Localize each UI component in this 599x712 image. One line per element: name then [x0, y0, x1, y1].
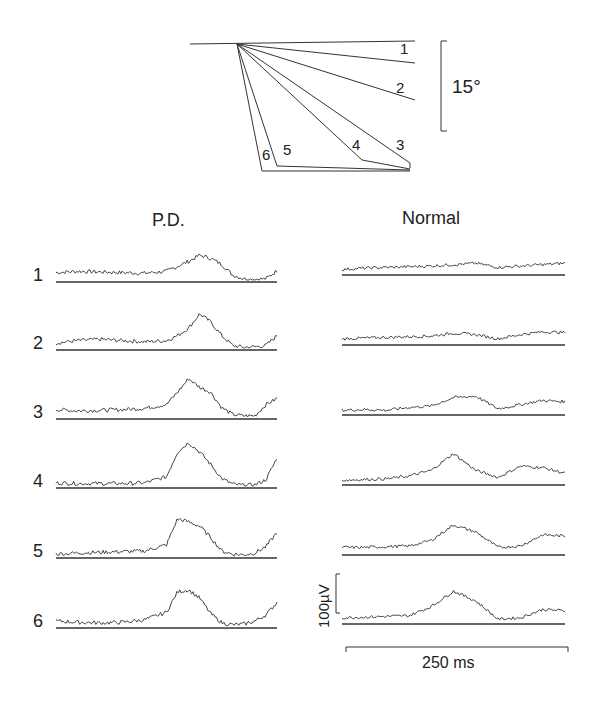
angle-trace-2: [237, 44, 415, 100]
emg-trace: [56, 254, 277, 280]
pd-panel-title: P.D.: [152, 210, 185, 230]
angle-scale-bracket: [441, 41, 447, 131]
emg-trace: [342, 454, 565, 481]
pd-trace-3: [56, 379, 277, 419]
emg-trace: [342, 262, 565, 271]
row-label: 1: [33, 265, 43, 285]
emg-trace: [56, 314, 277, 348]
normal-trace-5: [342, 526, 565, 555]
emg-trace: [342, 526, 565, 549]
pd-trace-1: [56, 254, 277, 282]
angle-trace-label: 6: [262, 146, 270, 163]
pd-trace-5: [56, 519, 277, 558]
normal-trace-3: [342, 396, 565, 415]
figure-canvas: 15° 123456 P.D. Normal 123456 100µV 250 …: [0, 0, 599, 712]
angle-trace-tail: [362, 160, 410, 169]
angle-panel: [190, 41, 447, 171]
emg-trace: [56, 379, 277, 417]
normal-trace-4: [342, 454, 565, 485]
emg-trace: [56, 590, 277, 626]
angle-trace-label: 3: [396, 136, 404, 153]
normal-trace-1: [342, 262, 565, 275]
angle-scale-label: 15°: [452, 76, 481, 97]
row-label: 3: [33, 402, 43, 422]
time-scale-bar: [346, 647, 568, 652]
normal-trace-2: [342, 331, 565, 345]
angle-trace-label: 5: [283, 141, 291, 158]
angle-trace-label: 1: [400, 40, 408, 57]
voltage-scale-label: 100µV: [315, 584, 332, 628]
pd-trace-2: [56, 314, 277, 350]
row-label: 6: [33, 611, 43, 631]
emg-trace: [56, 443, 277, 486]
normal-panel-title: Normal: [402, 208, 460, 228]
angle-trace-tail: [277, 166, 410, 170]
angle-trace-1: [237, 44, 415, 63]
emg-trace: [342, 396, 565, 412]
row-label: 2: [33, 333, 43, 353]
voltage-scale-bar: [336, 574, 340, 613]
emg-trace: [56, 519, 277, 556]
normal-trace-6: [342, 590, 565, 624]
angle-trace-label: 4: [352, 136, 360, 153]
emg-trace: [342, 331, 565, 340]
row-label: 4: [33, 471, 43, 491]
angle-trace-label: 2: [396, 79, 404, 96]
emg-trace: [342, 590, 565, 620]
row-label: 5: [33, 541, 43, 561]
pd-trace-4: [56, 443, 277, 488]
pd-trace-6: [56, 590, 277, 628]
time-scale-label: 250 ms: [422, 654, 474, 671]
baseline: [190, 41, 415, 44]
